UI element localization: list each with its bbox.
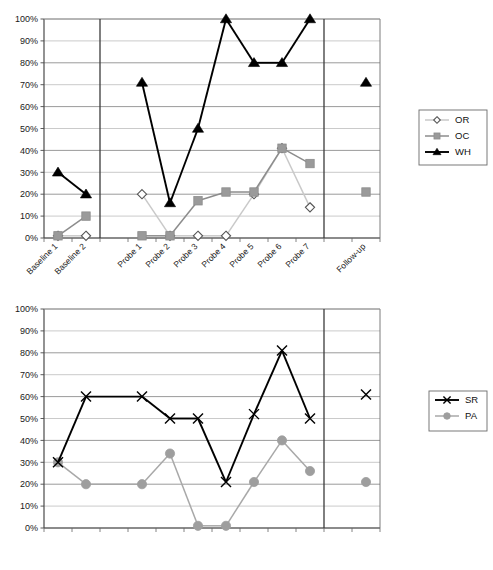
- data-point-marker: [136, 77, 147, 86]
- x-axis-category-label: Follow-up: [334, 241, 367, 274]
- legend-box: [429, 391, 487, 431]
- y-tick-label: 50%: [20, 414, 38, 424]
- data-point-marker: [221, 521, 230, 530]
- y-axis: 0%10%20%30%40%50%60%70%80%90%100%: [15, 14, 44, 243]
- data-point-marker: [249, 477, 258, 486]
- series-line-segment: [282, 440, 310, 471]
- data-point-marker: [434, 133, 440, 139]
- data-point-marker: [137, 480, 146, 489]
- data-point-marker: [138, 232, 146, 240]
- data-point-marker: [164, 198, 175, 207]
- legend: SRPA: [429, 391, 487, 431]
- series-line-segment: [142, 454, 170, 485]
- gridlines: [44, 19, 380, 238]
- data-point-marker: [277, 436, 286, 445]
- data-point-marker: [52, 167, 63, 176]
- data-point-marker: [193, 521, 202, 530]
- x-axis-labels: Baseline 1Baseline 2Probe 1Probe 2Probe …: [24, 241, 367, 276]
- data-point-marker: [221, 231, 230, 240]
- x-axis-category-label: Probe 7: [283, 241, 311, 269]
- top-chart-svg: 0%10%20%30%40%50%60%70%80%90%100%Baselin…: [0, 0, 493, 290]
- series-line-segment: [254, 148, 282, 192]
- y-tick-label: 10%: [20, 211, 38, 221]
- data-point-marker: [54, 232, 62, 240]
- data-point-marker: [193, 231, 202, 240]
- bottom-chart-svg: 0%10%20%30%40%50%60%70%80%90%100%SRPA: [0, 290, 493, 570]
- data-point-marker: [166, 232, 174, 240]
- data-point-marker: [82, 212, 90, 220]
- series-line-segment: [254, 440, 282, 482]
- y-tick-label: 80%: [20, 348, 38, 358]
- data-point-marker: [194, 197, 202, 205]
- series-line-segment: [142, 194, 170, 236]
- data-point-marker: [306, 159, 314, 167]
- data-point-marker: [444, 413, 451, 420]
- gridlines: [44, 309, 380, 528]
- series-line-segment: [226, 414, 254, 482]
- data-point-marker: [362, 188, 370, 196]
- series-line-segment: [282, 148, 310, 207]
- data-point-marker: [305, 466, 314, 475]
- y-tick-label: 80%: [20, 58, 38, 68]
- top-chart: 0%10%20%30%40%50%60%70%80%90%100%Baselin…: [0, 0, 493, 290]
- x-axis-category-label: Probe 4: [199, 241, 227, 269]
- series-line-segment: [170, 129, 198, 203]
- y-tick-label: 20%: [20, 479, 38, 489]
- series-line-segment: [58, 397, 86, 463]
- data-point-marker: [165, 449, 174, 458]
- legend-label-OR: OR: [455, 114, 469, 125]
- data-point-marker: [360, 77, 371, 86]
- y-tick-label: 90%: [20, 36, 38, 46]
- y-tick-label: 30%: [20, 168, 38, 178]
- y-tick-label: 20%: [20, 189, 38, 199]
- series-line-segment: [282, 351, 310, 419]
- data-point-marker: [192, 123, 203, 132]
- series-line-segment: [254, 351, 282, 415]
- x-axis-category-label: Probe 1: [115, 241, 143, 269]
- y-tick-label: 60%: [20, 102, 38, 112]
- y-tick-label: 90%: [20, 326, 38, 336]
- y-tick-label: 10%: [20, 501, 38, 511]
- legend-label-OC: OC: [455, 130, 469, 141]
- legend-label-WH: WH: [455, 146, 471, 157]
- legend: OROCWH: [419, 110, 487, 165]
- y-tick-label: 70%: [20, 370, 38, 380]
- y-tick-label: 40%: [20, 146, 38, 156]
- data-point-marker: [250, 188, 258, 196]
- data-point-marker: [81, 231, 90, 240]
- y-tick-label: 100%: [15, 14, 38, 24]
- x-axis-ticks: [44, 238, 380, 242]
- y-tick-label: 70%: [20, 80, 38, 90]
- series-OC: [54, 144, 370, 240]
- data-point-marker: [220, 14, 231, 23]
- series-line-segment: [170, 454, 198, 526]
- data-point-marker: [222, 188, 230, 196]
- legend-box: [419, 110, 487, 165]
- series-SR: [53, 346, 371, 487]
- y-tick-label: 0%: [25, 523, 38, 533]
- x-axis-category-label: Probe 2: [143, 241, 171, 269]
- y-axis: 0%10%20%30%40%50%60%70%80%90%100%: [15, 304, 44, 533]
- data-point-marker: [304, 14, 315, 23]
- series-line-segment: [142, 83, 170, 203]
- y-tick-label: 0%: [25, 233, 38, 243]
- series-line-segment: [226, 482, 254, 526]
- series-line-segment: [198, 419, 226, 483]
- figure-container: 0%10%20%30%40%50%60%70%80%90%100%Baselin…: [0, 0, 493, 570]
- y-tick-label: 40%: [20, 436, 38, 446]
- y-tick-label: 50%: [20, 124, 38, 134]
- bottom-chart: 0%10%20%30%40%50%60%70%80%90%100%SRPA: [0, 290, 493, 570]
- y-tick-label: 100%: [15, 304, 38, 314]
- x-axis-category-label: Baseline 2: [52, 241, 87, 276]
- data-point-marker: [81, 480, 90, 489]
- data-point-marker: [361, 477, 370, 486]
- data-point-marker: [305, 203, 314, 212]
- series-line-segment: [226, 194, 254, 236]
- legend-label-PA: PA: [465, 410, 478, 421]
- legend-label-SR: SR: [465, 394, 478, 405]
- x-axis-category-label: Probe 6: [255, 241, 283, 269]
- data-point-marker: [137, 190, 146, 199]
- y-tick-label: 60%: [20, 392, 38, 402]
- x-axis-category-label: Probe 3: [171, 241, 199, 269]
- data-point-marker: [278, 144, 286, 152]
